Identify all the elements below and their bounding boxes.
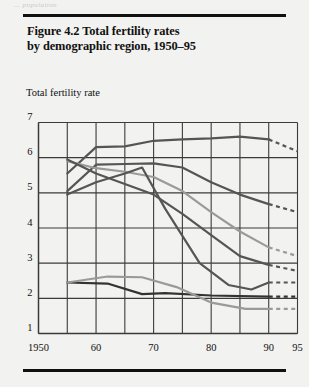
fertility-line-chart: 1234567 19506070809095 <box>0 0 309 387</box>
y-tick-label: 7 <box>27 111 32 122</box>
x-tick-label: 70 <box>148 342 159 353</box>
chart-plot-area: 1234567 19506070809095 <box>0 0 309 387</box>
series-projection-second-high-region <box>269 204 298 212</box>
chart-gridlines <box>39 123 298 334</box>
y-tick-label: 5 <box>27 181 32 192</box>
x-axis-tick-labels: 19506070809095 <box>28 342 303 353</box>
series-projection-mid-declining-region-light <box>269 247 298 256</box>
x-tick-label: 60 <box>91 342 102 353</box>
series-projection-high-fertility-region <box>269 139 298 151</box>
y-tick-label: 1 <box>27 322 32 333</box>
x-tick-label: 80 <box>206 342 217 353</box>
y-tick-label: 6 <box>27 146 32 157</box>
figure-panel: ... population Figure 4.2 Total fertilit… <box>0 0 309 387</box>
y-tick-label: 3 <box>27 252 32 263</box>
y-tick-label: 2 <box>27 287 32 298</box>
x-tick-label: 95 <box>292 342 303 353</box>
y-axis-tick-labels: 1234567 <box>27 111 33 333</box>
series-projection-mid-declining-region-dark <box>269 265 298 271</box>
x-tick-label: 1950 <box>28 342 49 353</box>
figure-bottom-rule <box>23 369 286 372</box>
y-tick-label: 4 <box>27 217 33 228</box>
x-tick-label: 90 <box>263 342 274 353</box>
